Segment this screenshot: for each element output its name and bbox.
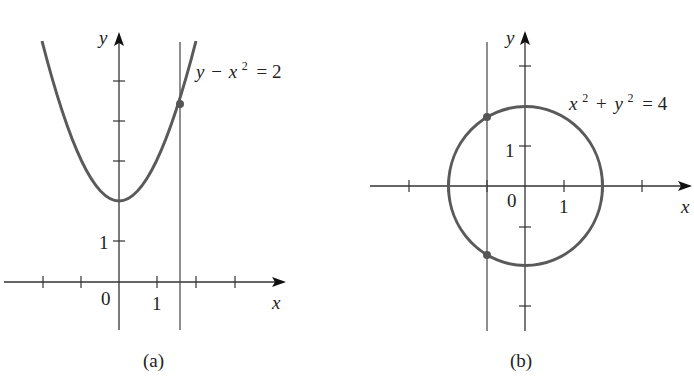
panel-b: y x 0 1 1 x 2 + y 2 = 4 (b)	[370, 27, 690, 372]
y-axis-label-a: y	[97, 27, 108, 48]
origin-label-a: 0	[101, 288, 111, 309]
caption-b: (b)	[510, 350, 532, 372]
x-axis-label-a: x	[271, 292, 281, 313]
intersection-point-lower-b	[483, 251, 491, 259]
x-tick-label-1-a: 1	[152, 293, 162, 314]
x-tick-label-1-b: 1	[559, 196, 569, 217]
figure: y x 0 1 1 y − x 2 = 2 (a)	[0, 0, 694, 392]
panel-a: y x 0 1 1 y − x 2 = 2 (a)	[4, 27, 284, 372]
caption-a: (a)	[143, 350, 164, 372]
x-axis-label-b: x	[680, 196, 690, 217]
intersection-point-upper-b	[483, 113, 491, 121]
y-tick-label-1-a: 1	[99, 232, 109, 253]
intersection-point-a	[176, 100, 184, 108]
origin-label-b: 0	[507, 190, 517, 211]
y-tick-label-1-b: 1	[505, 140, 515, 161]
equation-b: x 2 + y 2 = 4	[568, 85, 668, 114]
equation-a: y − x 2 = 2	[194, 53, 282, 82]
y-axis-label-b: y	[504, 27, 515, 48]
